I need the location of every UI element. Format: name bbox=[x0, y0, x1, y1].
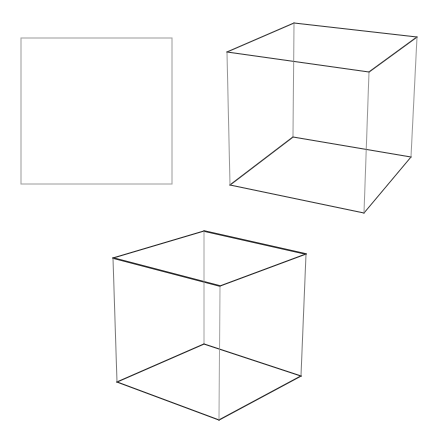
drawing-canvas bbox=[0, 0, 439, 444]
